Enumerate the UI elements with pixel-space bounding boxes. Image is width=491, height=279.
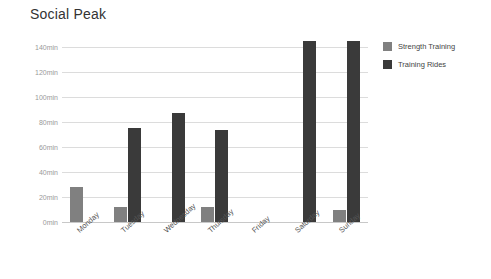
bar-monday-strength-training[interactable] (70, 187, 83, 222)
y-axis-tick-label: 20min (39, 194, 58, 201)
bar-group (106, 47, 150, 222)
legend-swatch-icon (383, 60, 392, 69)
y-axis-tick-label: 40min (39, 169, 58, 176)
legend-item-strength-training[interactable]: Strength Training (383, 40, 487, 53)
x-axis: MondayTuesdayWednesdayThursdayFridaySatu… (62, 222, 368, 279)
y-axis-tick-label: 140min (35, 44, 58, 51)
bar-group (281, 47, 325, 222)
bar-group (237, 47, 281, 222)
y-axis: 0min20min40min60min80min100min120min140m… (18, 47, 58, 222)
y-axis-tick-label: 0min (43, 219, 58, 226)
chart-title: Social Peak (30, 6, 106, 22)
chart-legend: Strength TrainingTraining Rides (383, 40, 487, 76)
legend-label: Strength Training (398, 42, 455, 51)
bar-group (324, 47, 368, 222)
bar-group (193, 47, 237, 222)
y-axis-tick-label: 60min (39, 144, 58, 151)
plot-area (62, 47, 368, 222)
chart-card: Social Peak 0min20min40min60min80min100m… (0, 0, 491, 279)
bar-wednesday-training-rides[interactable] (172, 113, 185, 222)
bar-tuesday-strength-training[interactable] (114, 207, 127, 222)
bar-tuesday-training-rides[interactable] (128, 128, 141, 222)
y-axis-tick-label: 80min (39, 119, 58, 126)
y-axis-tick-label: 100min (35, 94, 58, 101)
bar-saturday-training-rides[interactable] (303, 41, 316, 222)
bar-group (62, 47, 106, 222)
bar-sunday-training-rides[interactable] (347, 41, 360, 222)
legend-label: Training Rides (398, 60, 446, 69)
legend-swatch-icon (383, 42, 392, 51)
bar-thursday-strength-training[interactable] (201, 207, 214, 222)
y-axis-tick-label: 120min (35, 69, 58, 76)
bar-group (149, 47, 193, 222)
legend-item-training-rides[interactable]: Training Rides (383, 58, 487, 71)
